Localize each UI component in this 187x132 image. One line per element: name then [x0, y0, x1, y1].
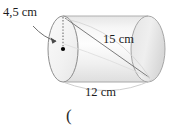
cylinder-figure: 4,5 cm 15 cm 12 cm ( [0, 0, 187, 132]
stray-parenthesis: ( [66, 107, 72, 124]
center-dot [61, 47, 65, 51]
radius-label: 4,5 cm [3, 6, 37, 19]
cylinder-far-cap [131, 16, 165, 82]
length-label: 12 cm [85, 86, 116, 99]
cylinder-drawing [0, 0, 187, 132]
diagonal-label: 15 cm [103, 33, 134, 46]
